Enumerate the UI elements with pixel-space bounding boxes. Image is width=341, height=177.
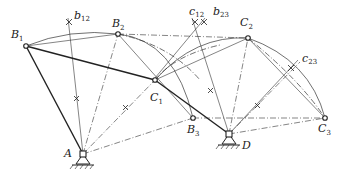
chords — [26, 34, 325, 118]
x-mark-c12 — [192, 19, 198, 25]
label-b1: B1 — [10, 28, 24, 43]
x-mark-mid-b3 — [208, 88, 213, 93]
label-c23: c23 — [302, 52, 317, 66]
joint-a — [80, 151, 86, 157]
label-b23: b23 — [213, 5, 229, 19]
joint-b2 — [116, 32, 121, 37]
joint-b1 — [24, 44, 29, 49]
x-mark-b12 — [66, 19, 72, 25]
label-b3: B3 — [186, 123, 200, 138]
joint-c2 — [246, 36, 251, 41]
four-bar-linkage-diagram: B1 B2 B3 C1 C2 C3 A D b12 c12 b23 c23 — [0, 0, 341, 177]
x-mark-c23 — [288, 65, 294, 71]
label-b2: B2 — [111, 17, 125, 32]
x-mark-mid-c1 — [123, 105, 128, 110]
joint-c3 — [323, 116, 328, 121]
label-b12: b12 — [74, 9, 90, 23]
label-c2: C2 — [240, 16, 253, 31]
label-a: A — [63, 147, 72, 160]
radial-lines — [83, 34, 325, 154]
label-c3: C3 — [318, 122, 331, 137]
label-c12: c12 — [189, 5, 204, 19]
joint-d — [226, 131, 232, 137]
joint-c1 — [153, 78, 158, 83]
labels: B1 B2 B3 C1 C2 C3 A D b12 c12 b23 c23 — [10, 5, 331, 160]
label-c1: C1 — [150, 91, 163, 106]
label-d: D — [241, 139, 251, 152]
joint-b3 — [191, 116, 196, 121]
